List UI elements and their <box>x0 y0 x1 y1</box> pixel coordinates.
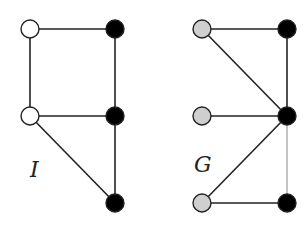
node-t <box>278 107 296 125</box>
edge-r-t <box>202 116 287 203</box>
node-u <box>278 194 296 212</box>
node-d <box>106 107 124 125</box>
graph-i <box>21 20 124 212</box>
graph-label-g: G <box>194 152 212 177</box>
node-p <box>193 20 211 38</box>
node-s <box>278 20 296 38</box>
node-c <box>106 20 124 38</box>
graph-g <box>193 20 296 212</box>
node-b <box>21 107 39 125</box>
edge-p-t <box>202 29 287 116</box>
node-e <box>106 194 124 212</box>
graph-diagram <box>0 0 308 226</box>
edge-b-e <box>30 116 115 203</box>
node-q <box>193 107 211 125</box>
graph-label-i: I <box>30 157 39 182</box>
node-r <box>193 194 211 212</box>
node-a <box>21 20 39 38</box>
